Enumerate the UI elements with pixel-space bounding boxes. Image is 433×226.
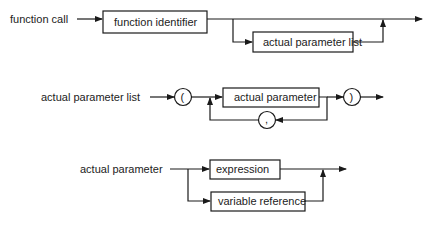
- terminal-open-paren: (: [181, 91, 185, 103]
- nonterminal-label-actual-parameter: actual parameter: [234, 91, 317, 103]
- nonterminal-label-function-identifier: function identifier: [114, 16, 197, 28]
- alternative-branch-down: [188, 169, 210, 201]
- rule-label-function-call: function call: [10, 13, 68, 25]
- optional-branch-down: [233, 19, 252, 42]
- diagram-actual-parameter-list: actual parameter list ( actual parameter…: [41, 88, 383, 129]
- syntax-diagrams: function call function identifier actual…: [0, 0, 433, 226]
- terminal-comma: ,: [265, 113, 268, 125]
- alternative-branch-up: [305, 170, 323, 201]
- rule-label-actual-parameter: actual parameter: [80, 163, 163, 175]
- diagram-function-call: function call function identifier actual…: [10, 11, 422, 52]
- terminal-close-paren: ): [350, 91, 354, 103]
- diagram-actual-parameter: actual parameter expression variable ref…: [80, 160, 346, 211]
- rule-label-actual-parameter-list: actual parameter list: [41, 91, 140, 103]
- nonterminal-label-variable-reference: variable reference: [218, 195, 306, 207]
- nonterminal-label-actual-parameter-list: actual parameter list: [263, 36, 362, 48]
- nonterminal-label-expression: expression: [216, 163, 269, 175]
